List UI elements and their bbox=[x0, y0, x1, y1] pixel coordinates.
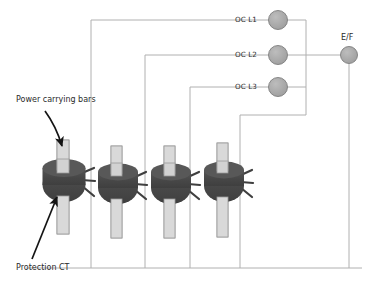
relay-oc-l1[interactable] bbox=[269, 11, 288, 30]
current-transformer-3[interactable] bbox=[151, 146, 200, 238]
arrow-protection-ct bbox=[32, 197, 57, 259]
current-transformer-4[interactable] bbox=[204, 143, 253, 237]
relay-label-oc-l3: OC L3 bbox=[235, 83, 257, 90]
relay-oc-l3[interactable] bbox=[269, 78, 288, 97]
current-transformer-2[interactable] bbox=[98, 146, 147, 238]
relay-label-oc-l1: OC L1 bbox=[235, 16, 257, 23]
relay-ef[interactable] bbox=[341, 47, 358, 64]
annotation-power-carrying-bars: Power carrying bars bbox=[16, 96, 96, 104]
annotation-protection-ct: Protection CT bbox=[16, 264, 70, 272]
wire-ct4-to-ef bbox=[240, 115, 306, 268]
relay-oc-l2[interactable] bbox=[269, 46, 288, 65]
schematic-svg bbox=[0, 0, 367, 289]
relay-label-oc-l2: OC L2 bbox=[235, 51, 257, 58]
arrow-power-carrying-bars bbox=[45, 111, 62, 146]
current-transformer-1[interactable] bbox=[43, 140, 96, 234]
diagram-canvas: OC L1 OC L2 OC L3 E/F Power carrying bar… bbox=[0, 0, 367, 289]
relay-label-ef: E/F bbox=[341, 34, 353, 42]
wiring-group bbox=[26, 20, 362, 268]
